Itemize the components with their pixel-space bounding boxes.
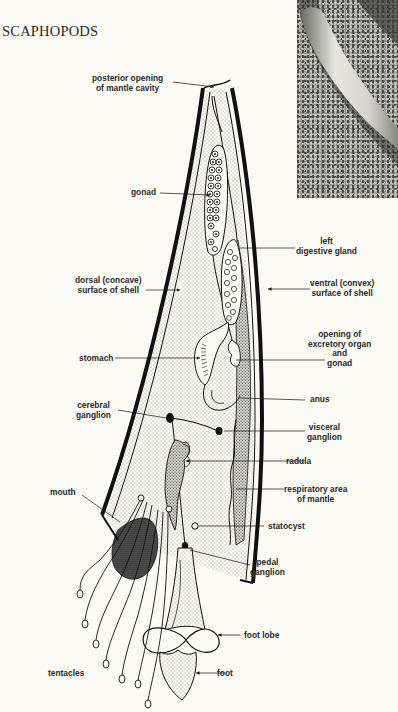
label-pedal-ganglion: pedal ganglion: [250, 558, 285, 577]
label-line: gonad: [308, 359, 371, 369]
label-line: of mantle: [284, 495, 347, 505]
statocyst: [192, 523, 198, 529]
label-foot: foot: [217, 669, 233, 679]
label-line: ganglion: [307, 433, 342, 443]
label-tentacles: tentacles: [48, 669, 84, 679]
label-mouth: mouth: [50, 488, 76, 498]
visceral-ganglion: [216, 427, 223, 435]
label-visceral-ganglion: visceral ganglion: [307, 423, 342, 442]
label-line: digestive gland: [296, 247, 357, 257]
label-gonad: gonad: [131, 188, 156, 198]
label-line: ganglion: [76, 411, 111, 421]
cerebral-ganglion: [166, 413, 174, 423]
label-statocyst: statocyst: [268, 522, 305, 532]
label-dorsal-surface: dorsal (concave) surface of shell: [75, 276, 142, 295]
foot: [143, 548, 219, 700]
label-line: surface of shell: [75, 286, 142, 296]
label-ventral-surface: ventral (convex) surface of shell: [310, 279, 374, 298]
digestive-gland: [221, 240, 242, 325]
label-line: of mantle cavity: [92, 84, 163, 94]
label-excretory-opening: opening of excretory organ and gonad: [308, 330, 371, 368]
label-radula: radula: [286, 457, 311, 467]
label-anus: anus: [310, 395, 330, 405]
label-stomach: stomach: [79, 354, 113, 364]
label-line: surface of shell: [310, 289, 374, 299]
label-line: ganglion: [250, 568, 285, 578]
foot-lobe: [143, 628, 219, 653]
label-cerebral-ganglion: cerebral ganglion: [76, 401, 111, 420]
label-foot-lobe: foot lobe: [244, 631, 279, 641]
label-left-digestive-gland: left digestive gland: [296, 237, 357, 256]
label-posterior-opening: posterior opening of mantle cavity: [92, 74, 163, 93]
label-respiratory-area: respiratory area of mantle: [284, 485, 347, 504]
